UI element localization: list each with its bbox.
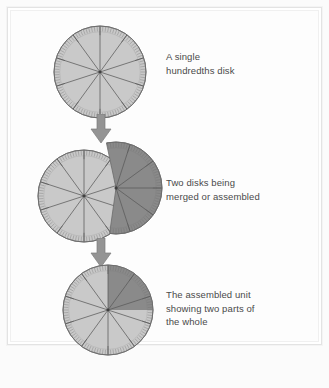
caption-merging-disks: Two disks being merged or assembled: [166, 176, 301, 203]
disk-single-svg: [48, 22, 152, 122]
disk-single: [48, 22, 152, 122]
disk-assembled-svg: [58, 262, 158, 358]
disk-pair-svg: [36, 140, 166, 248]
figure-page: A single hundredths disk Two disks being…: [0, 0, 329, 388]
disk-overlapping-pair: [36, 140, 166, 248]
caption-assembled-unit: The assembled unit showing two parts of …: [166, 288, 296, 329]
caption-single-disk: A single hundredths disk: [166, 50, 286, 77]
disk-assembled-unit: [58, 262, 158, 358]
